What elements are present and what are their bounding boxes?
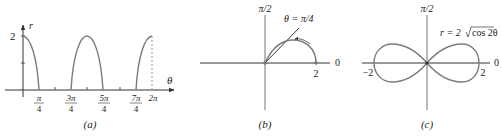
caption-c: (c) (421, 118, 434, 131)
label-neg-2: −2 (363, 67, 374, 78)
svg-text:4: 4 (102, 104, 107, 114)
label-pi-2-c: π/2 (421, 3, 434, 14)
label-2-c: 2 (481, 67, 486, 78)
label-pi-2-b: π/2 (259, 3, 272, 14)
r-axis-label: r (29, 20, 33, 31)
curve-segment-3 (136, 36, 152, 90)
tick-5pi-4: 5π 4 (98, 93, 110, 114)
svg-text:cos 2θ: cos 2θ (472, 27, 498, 38)
label-zero-b: 0 (335, 57, 340, 68)
polar-curve-b (265, 40, 316, 63)
theta-axis-label: θ (167, 74, 173, 86)
tick-3pi-4: 3π 4 (65, 93, 77, 114)
panel-b: π/2 θ = π/4 0 2 (b) (200, 3, 340, 131)
panel-a: r 2 θ π 4 3π 4 5π 4 7π 4 2π (a) (5, 20, 174, 131)
equation-label: r = 2 cos 2θ (440, 27, 498, 38)
svg-text:4: 4 (69, 104, 74, 114)
label-2-b: 2 (314, 68, 319, 79)
caption-a: (a) (84, 118, 97, 131)
tick-7pi-4: 7π 4 (130, 93, 142, 114)
svg-text:4: 4 (134, 104, 139, 114)
svg-text:4: 4 (37, 104, 42, 114)
svg-text:π: π (37, 93, 42, 103)
origin-point-b (263, 61, 267, 65)
panel-c: π/2 r = 2 cos 2θ 0 −2 2 (c) (362, 3, 499, 131)
point-2-b (314, 61, 318, 65)
figure-canvas: r 2 θ π 4 3π 4 5π 4 7π 4 2π (a) (0, 0, 502, 136)
tick-pi-4: π 4 (34, 93, 44, 114)
svg-text:3π: 3π (65, 93, 76, 103)
curve-segment-1 (23, 36, 39, 90)
svg-text:5π: 5π (99, 93, 109, 103)
caption-b: (b) (259, 118, 272, 131)
origin-point-c (425, 61, 428, 64)
tick-2pi: 2π (148, 93, 158, 103)
svg-text:r = 2: r = 2 (440, 27, 461, 38)
label-zero-c: 0 (494, 57, 499, 68)
svg-text:7π: 7π (131, 93, 141, 103)
line-theta-pi-4 (265, 28, 299, 63)
y-tick-label: 2 (10, 30, 16, 42)
label-theta-line: θ = π/4 (284, 13, 313, 24)
curve-segment-2 (71, 36, 103, 90)
